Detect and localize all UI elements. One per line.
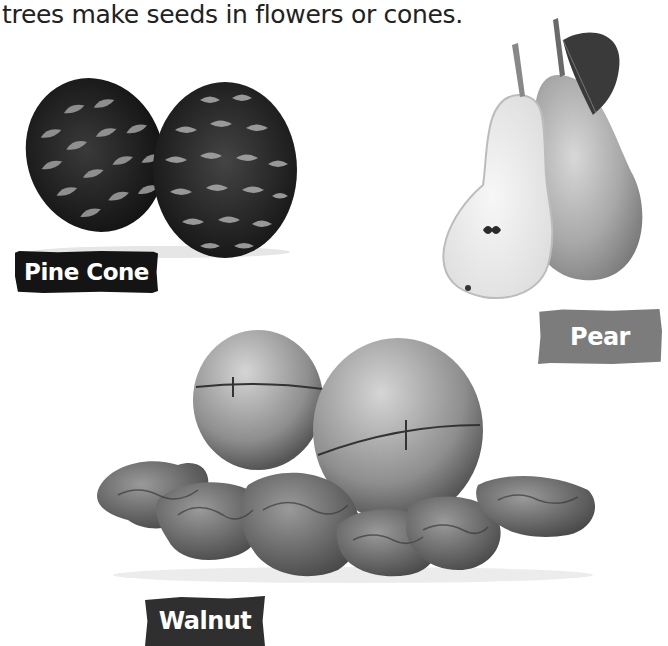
pine-cones-photo — [10, 60, 310, 260]
pine-cone-label: Pine Cone — [15, 251, 158, 293]
pears-photo — [428, 15, 668, 305]
walnut-label: Walnut — [145, 596, 265, 646]
intro-text: trees make seeds in flowers or cones. — [2, 0, 463, 30]
walnuts-photo — [88, 325, 618, 585]
pear-label: Pear — [538, 309, 662, 364]
